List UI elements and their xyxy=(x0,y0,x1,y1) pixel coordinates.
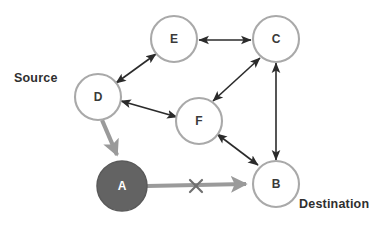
node-d[interactable]: D xyxy=(75,74,121,120)
edge-f-c xyxy=(213,58,260,101)
node-d-label: D xyxy=(94,90,103,104)
node-a[interactable]: A xyxy=(97,161,147,211)
edge-f-b xyxy=(217,134,258,165)
node-f[interactable]: F xyxy=(176,98,222,144)
edge-d-e xyxy=(116,54,156,83)
node-c[interactable]: C xyxy=(253,16,299,62)
diagram-canvas: E C D F B A Source xyxy=(0,0,387,226)
node-a-label: A xyxy=(118,179,127,193)
node-layer: E C D F B A xyxy=(75,16,299,211)
node-e[interactable]: E xyxy=(151,16,197,62)
node-c-label: C xyxy=(272,32,281,46)
node-b[interactable]: B xyxy=(253,161,299,207)
node-f-label: F xyxy=(195,114,202,128)
source-label: Source xyxy=(14,71,58,85)
node-e-label: E xyxy=(170,32,178,46)
edge-d-a xyxy=(102,120,117,155)
node-b-label: B xyxy=(272,177,281,191)
graph-svg: E C D F B A xyxy=(0,0,387,226)
destination-label: Destination xyxy=(299,197,369,211)
edge-d-f xyxy=(121,101,177,117)
